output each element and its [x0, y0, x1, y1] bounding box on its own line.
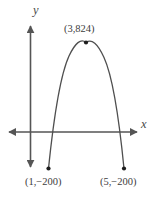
vertex-point-label: (3,824)	[64, 24, 95, 35]
x-axis-label: x	[141, 118, 147, 131]
axes-group	[9, 26, 137, 167]
parabola-curve	[49, 41, 125, 169]
right-endpoint-point-label: (5,−200)	[100, 177, 137, 188]
data-point-markers	[46, 40, 126, 170]
parabola-figure: y x (3,824) (1,−200) (5,−200)	[0, 0, 160, 201]
left-endpoint-point-label: (1,−200)	[25, 177, 62, 188]
y-axis-label: y	[33, 4, 39, 17]
marker-left-endpoint	[46, 166, 50, 170]
marker-vertex	[84, 40, 88, 44]
parabola-curve-group	[49, 41, 125, 169]
marker-right-endpoint	[122, 166, 126, 170]
